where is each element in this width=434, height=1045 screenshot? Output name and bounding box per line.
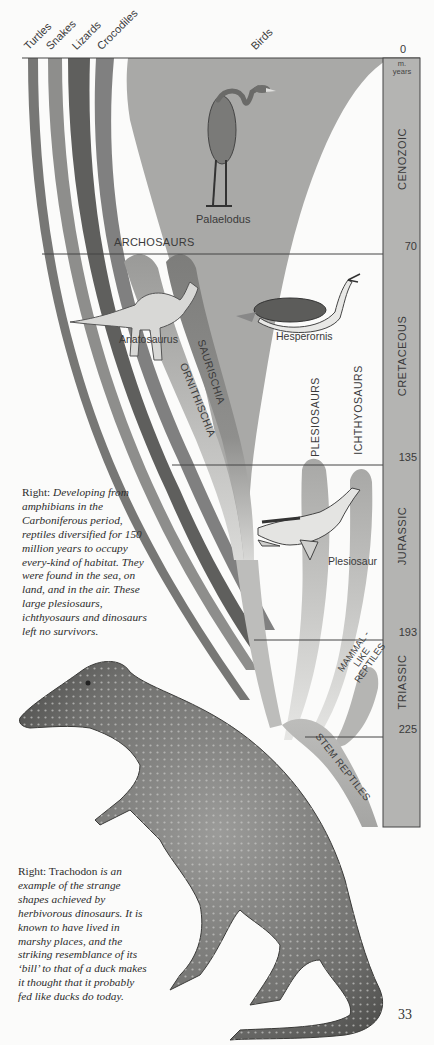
label-plesiosaurs: PLESIOSAURS <box>309 377 321 457</box>
period-triassic: TRIASSIC <box>396 642 408 722</box>
label-anatosaurus: Anatosaurus <box>119 333 178 345</box>
timescale-unit: m. years <box>384 60 420 76</box>
plesiosaurs-lineage <box>284 459 329 740</box>
caption-bottom-lead: Right: Trachodon <box>18 865 97 877</box>
tick-193: 193 <box>384 626 417 638</box>
period-cenozoic: CENOZOIC <box>396 119 408 199</box>
caption-top-body: Developing from amphibians in the Carbon… <box>22 486 147 637</box>
caption-top-lead: Right: <box>22 486 53 498</box>
caption-reptile-diversification: Right: Developing from amphibians in the… <box>22 486 157 639</box>
period-cretaceous: CRETACEOUS <box>396 306 408 406</box>
archosaur-trunk <box>236 560 282 728</box>
label-palaelodus: Palaelodus <box>196 213 250 225</box>
caption-bottom-body: is an example of the strange shapes achi… <box>18 865 147 1002</box>
tick-135: 135 <box>384 451 417 463</box>
tick-225: 225 <box>384 723 417 735</box>
period-jurassic: JURASSIC <box>396 496 408 576</box>
page-number: 33 <box>398 1007 412 1023</box>
label-plesiosaur: Plesiosaur <box>328 555 377 567</box>
tick-0: 0 <box>396 43 410 55</box>
timescale-unit-line2: years <box>384 68 420 76</box>
label-ichthyosaurs: ICHTHYOSAURS <box>352 365 364 455</box>
caption-trachodon: Right: Trachodon is an example of the st… <box>18 865 150 1004</box>
label-archosaurs: ARCHOSAURS <box>114 236 195 248</box>
label-hesperornis: Hesperornis <box>276 330 333 342</box>
tick-70: 70 <box>384 240 417 252</box>
